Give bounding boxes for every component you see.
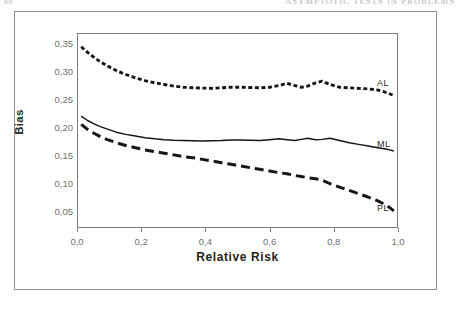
series-label-ml: ML — [377, 139, 390, 149]
running-head-text: ASYMPTOTIC TESTS IN PROBLEMS — [285, 0, 455, 6]
x-axis-tick-mark — [270, 228, 271, 232]
series-line-al — [81, 47, 394, 96]
page-folio-number: 66 — [4, 0, 13, 6]
x-axis-tick-mark — [398, 228, 399, 232]
y-axis-tick-label: 0,25 — [55, 94, 74, 105]
x-axis-tick-labels: 0,00,20,40,60,81,0 — [77, 228, 398, 250]
y-axis-tick-label: 0,20 — [55, 122, 74, 133]
y-axis-tick-label: 0,30 — [55, 66, 74, 77]
y-axis-tick-labels: 0,050,100,150,200,250,300,35 — [29, 33, 73, 228]
series-label-al: AL — [377, 78, 389, 88]
chart-svg — [78, 34, 397, 227]
y-axis-title: Bias — [13, 109, 25, 135]
x-axis-tick-mark — [205, 228, 206, 232]
x-axis-title: Relative Risk — [77, 250, 398, 264]
x-axis-tick-label: 1,0 — [391, 236, 404, 247]
figure-container: 0,050,100,150,200,250,300,35 Bias ALMLPL… — [14, 11, 437, 290]
x-axis-tick-label: 0,4 — [199, 236, 212, 247]
x-axis-tick-mark — [334, 228, 335, 232]
x-axis-tick-label: 0,6 — [263, 236, 276, 247]
series-label-pl: PL — [377, 203, 389, 213]
y-axis-tick-label: 0,15 — [55, 150, 74, 161]
x-axis-tick-label: 0,0 — [70, 236, 83, 247]
plot-area: ALMLPL — [77, 33, 398, 228]
x-axis-tick-label: 0,8 — [327, 236, 340, 247]
y-axis-tick-label: 0,10 — [55, 178, 74, 189]
series-line-ml — [81, 116, 394, 151]
y-axis-tick-label: 0,05 — [55, 206, 74, 217]
y-axis-tick-label: 0,35 — [55, 38, 74, 49]
x-axis-tick-mark — [141, 228, 142, 232]
x-axis-tick-mark — [77, 228, 78, 232]
series-line-pl — [81, 124, 394, 211]
x-axis-tick-label: 0,2 — [135, 236, 148, 247]
